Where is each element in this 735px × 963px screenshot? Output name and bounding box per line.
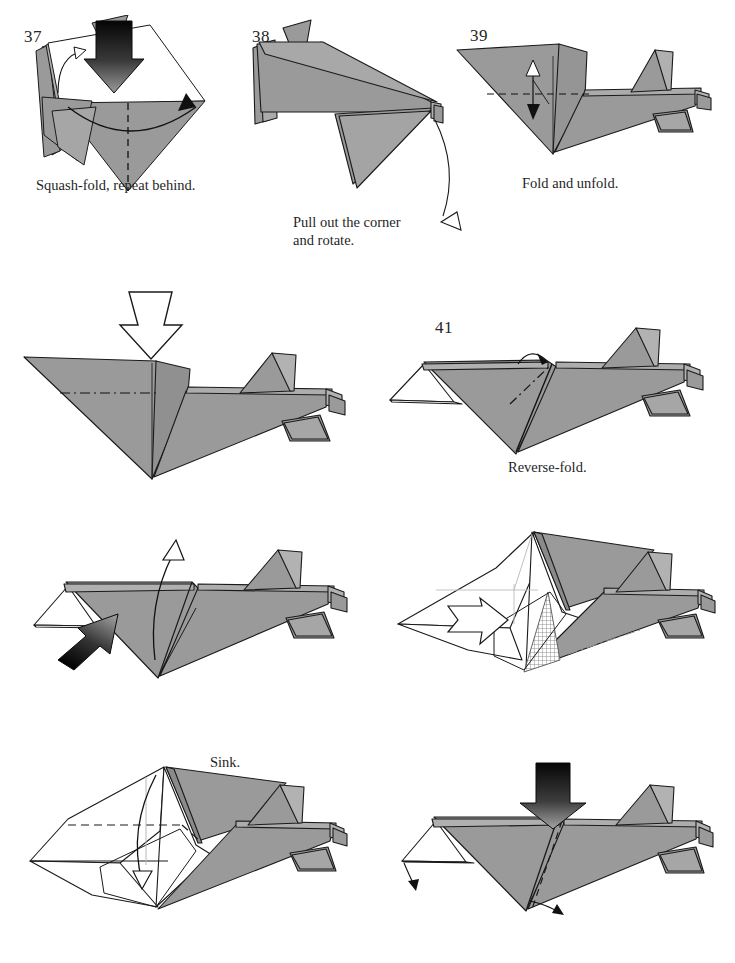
step-44-panel: 44: [0, 755, 385, 960]
step-37-figure: [0, 15, 245, 195]
step-37-panel: 37: [0, 0, 245, 205]
step-38-figure: [235, 8, 475, 238]
step-40-figure: [0, 285, 380, 485]
step-39-caption: Fold and unfold.: [522, 174, 618, 192]
step-39-figure: [455, 32, 735, 182]
step-43-figure: [390, 520, 735, 700]
step-40-panel: 40: [0, 285, 380, 500]
step-41-panel: 41: [370, 300, 735, 500]
step-38-panel: 38: [235, 0, 475, 270]
step-44-figure: [0, 755, 385, 940]
step-43-panel: 43: [390, 520, 735, 720]
origami-instruction-page: 37: [0, 0, 735, 963]
step-45-small-arrow-left: [404, 863, 419, 891]
step-45-panel: 45: [390, 755, 735, 960]
step-42-panel: 42: [0, 520, 385, 720]
step-42-figure: [0, 520, 385, 700]
step-37-caption: Squash-fold, repeat behind.: [36, 176, 195, 194]
step-41-caption: Reverse-fold.: [508, 458, 587, 476]
step-45-figure: [390, 755, 735, 930]
step-39-panel: 39: [455, 0, 735, 200]
step-38-caption: Pull out the corner and rotate.: [293, 213, 401, 249]
step-41-figure: [370, 312, 735, 472]
step-40-large-hollow-push-arrow: [120, 292, 182, 359]
